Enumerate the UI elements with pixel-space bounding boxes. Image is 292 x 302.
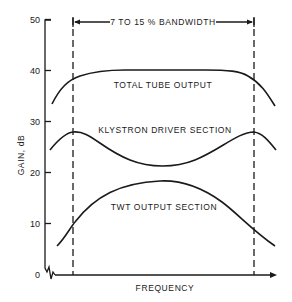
label-total-tube-output: TOTAL TUBE OUTPUT [114,80,213,90]
y-tick-50: 50 [30,15,40,25]
bandwidth-label: 7 TO 15 % BANDWIDTH [110,17,216,27]
gain-frequency-chart: 50 40 30 20 10 0 GAIN, dB 7 TO 15 % BAND… [0,0,292,302]
curve-klystron-driver [50,132,276,166]
y-tick-0: 0 [35,270,40,280]
label-twt-output: TWT OUTPUT SECTION [111,202,217,212]
y-tick-30: 30 [30,117,40,127]
curve-twt-output [57,181,275,246]
y-ticks [45,20,51,224]
arrow-right-icon [247,20,253,25]
x-axis-arrow-icon [270,272,277,278]
y-tick-40: 40 [30,66,40,76]
y-axis-label: GAIN, dB [16,135,26,176]
arrow-left-icon [74,20,80,25]
x-axis-label: FREQUENCY [136,283,195,293]
y-tick-20: 20 [30,168,40,178]
y-tick-10: 10 [30,219,40,229]
label-klystron-driver: KLYSTRON DRIVER SECTION [98,125,232,135]
